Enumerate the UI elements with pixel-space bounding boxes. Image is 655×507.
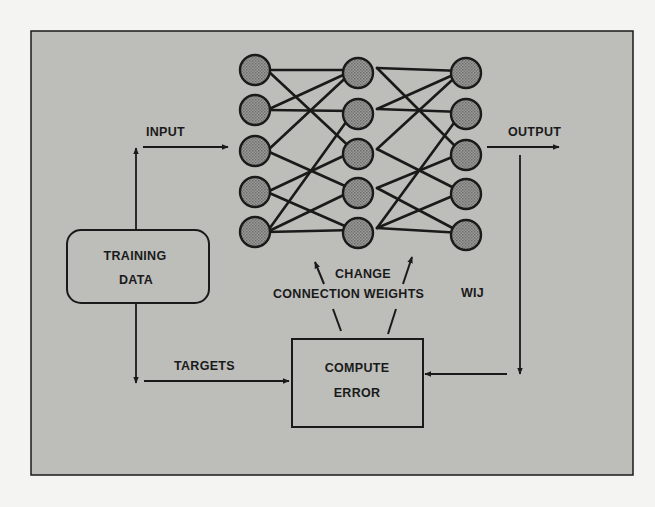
input-layer-node-1 (240, 55, 270, 85)
hidden-layer-node-2 (343, 99, 373, 129)
compute-error-label-line2: ERROR (334, 386, 381, 400)
targets-label: TARGETS (174, 359, 235, 373)
training-data-label-line2: DATA (119, 273, 153, 287)
training-data-box: TRAINING DATA (67, 230, 209, 303)
output-layer-node-2 (451, 99, 481, 129)
hidden-layer-node-1 (343, 58, 373, 88)
neural-network-training-diagram: INPUT OUTPUT TRAINING DATA TARGETS COMPU… (0, 0, 655, 507)
weights-symbol-label: WIJ (461, 286, 484, 300)
training-data-label-line1: TRAINING (104, 249, 167, 263)
change-label: CHANGE (335, 267, 391, 281)
input-label: INPUT (146, 125, 185, 139)
hidden-layer-node-5 (343, 218, 373, 248)
input-layer-node-5 (240, 217, 270, 247)
output-layer-node-4 (451, 179, 481, 209)
output-layer-node-1 (451, 58, 481, 88)
output-layer-node-5 (451, 220, 481, 250)
input-layer-node-2 (240, 95, 270, 125)
output-label: OUTPUT (508, 125, 561, 139)
input-layer-node-3 (240, 136, 270, 166)
output-layer-node-3 (451, 140, 481, 170)
connection-weights-label: CONNECTION WEIGHTS (273, 287, 424, 301)
hidden-layer-node-4 (343, 178, 373, 208)
compute-error-box: COMPUTE ERROR (292, 339, 423, 427)
compute-error-label-line1: COMPUTE (325, 361, 390, 375)
hidden-layer-node-3 (343, 139, 373, 169)
input-layer-node-4 (240, 177, 270, 207)
